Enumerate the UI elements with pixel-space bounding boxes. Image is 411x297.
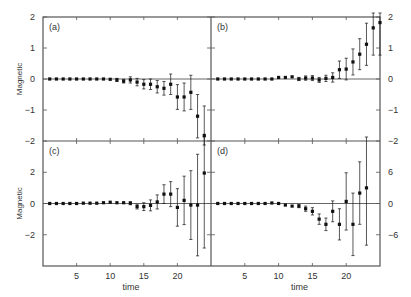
data-point <box>318 218 321 221</box>
data-point <box>75 77 78 80</box>
panel-label: (c) <box>49 146 60 156</box>
magnetic-vs-time-figure: −2−1012Magnetic(a)−2−1012(b)5101520time−… <box>0 0 411 297</box>
data-point <box>142 83 145 86</box>
data-point <box>135 81 138 84</box>
x-tick-label: 15 <box>139 271 149 281</box>
data-point <box>162 87 165 90</box>
data-point <box>351 60 354 63</box>
data-point <box>176 95 179 98</box>
data-point <box>230 77 233 80</box>
data-point <box>82 77 85 80</box>
data-point <box>250 77 253 80</box>
x-tick-label: 10 <box>105 271 115 281</box>
data-point <box>109 201 112 204</box>
data-point <box>115 78 118 81</box>
data-point <box>203 171 206 174</box>
data-point <box>365 186 368 189</box>
y-tick-label: 0 <box>388 74 393 84</box>
y-axis-label: Magnetic <box>15 63 24 95</box>
x-tick-label: 15 <box>307 271 317 281</box>
data-point <box>257 77 260 80</box>
data-point <box>109 78 112 81</box>
data-point <box>236 202 239 205</box>
data-point <box>223 77 226 80</box>
panel-c: 5101520time−202Magnetic(c) <box>15 137 211 292</box>
y-tick-label: 6 <box>388 167 393 177</box>
y-tick-label: −2 <box>25 230 35 240</box>
data-point <box>345 200 348 203</box>
data-point <box>284 76 287 79</box>
data-point <box>297 77 300 80</box>
data-point <box>189 91 192 94</box>
data-point <box>169 83 172 86</box>
data-point <box>291 75 294 78</box>
data-point <box>183 95 186 98</box>
data-point <box>257 202 260 205</box>
data-point <box>331 210 334 213</box>
data-point <box>196 115 199 118</box>
data-point <box>216 202 219 205</box>
data-point <box>55 77 58 80</box>
data-point <box>270 77 273 80</box>
panel-label: (a) <box>49 22 60 32</box>
data-point <box>102 77 105 80</box>
data-point <box>243 77 246 80</box>
data-point <box>236 77 239 80</box>
x-tick-label: 10 <box>274 271 284 281</box>
y-tick-label: 0 <box>30 199 35 209</box>
y-tick-label: 2 <box>30 167 35 177</box>
data-point <box>122 201 125 204</box>
x-tick-label: 5 <box>242 271 247 281</box>
data-point <box>372 26 375 29</box>
data-point <box>338 68 341 71</box>
data-point <box>324 223 327 226</box>
data-point <box>183 199 186 202</box>
data-point <box>88 202 91 205</box>
data-point <box>55 202 58 205</box>
data-point <box>263 77 266 80</box>
data-point <box>331 76 334 79</box>
data-point <box>378 21 381 24</box>
data-point <box>48 77 51 80</box>
data-point <box>318 78 321 81</box>
data-point <box>277 202 280 205</box>
data-point <box>196 203 199 206</box>
x-tick-label: 20 <box>341 271 351 281</box>
data-point <box>129 78 132 81</box>
data-point <box>358 53 361 56</box>
data-point <box>95 77 98 80</box>
data-point <box>324 77 327 80</box>
data-point <box>243 202 246 205</box>
data-point <box>223 202 226 205</box>
data-point <box>142 205 145 208</box>
x-tick-label: 5 <box>74 271 79 281</box>
panel-b: −2−1012(b) <box>211 12 398 146</box>
data-point <box>311 76 314 79</box>
x-tick-label: 20 <box>172 271 182 281</box>
panel-d: 5101520time−606(d) <box>211 137 398 292</box>
data-point <box>216 77 219 80</box>
data-point <box>358 191 361 194</box>
data-point <box>115 201 118 204</box>
data-point <box>304 76 307 79</box>
data-point <box>304 207 307 210</box>
data-point <box>88 77 91 80</box>
data-point <box>365 43 368 46</box>
data-point <box>102 201 105 204</box>
data-point <box>75 202 78 205</box>
y-tick-label: 0 <box>30 74 35 84</box>
data-point <box>250 202 253 205</box>
data-point <box>149 83 152 86</box>
y-axis-label: Magnetic <box>15 187 24 219</box>
data-point <box>95 202 98 205</box>
data-point <box>122 80 125 83</box>
data-point <box>68 77 71 80</box>
data-point <box>149 204 152 207</box>
panel-a: −2−1012Magnetic(a) <box>15 12 211 146</box>
x-axis-label: time <box>291 282 308 292</box>
data-point <box>189 203 192 206</box>
data-point <box>345 67 348 70</box>
data-point <box>162 193 165 196</box>
data-point <box>62 202 65 205</box>
y-tick-label: 2 <box>388 12 393 22</box>
